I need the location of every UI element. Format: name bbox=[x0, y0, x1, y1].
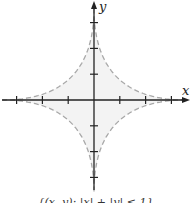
figure-caption: {(x, y): |x| + |y| ≤ 1} bbox=[0, 196, 191, 203]
x-axis-label: x bbox=[182, 83, 190, 98]
y-axis-label: y bbox=[98, 0, 107, 14]
region-diagram: x y bbox=[0, 0, 191, 203]
y-axis-arrowhead-icon bbox=[91, 1, 97, 9]
